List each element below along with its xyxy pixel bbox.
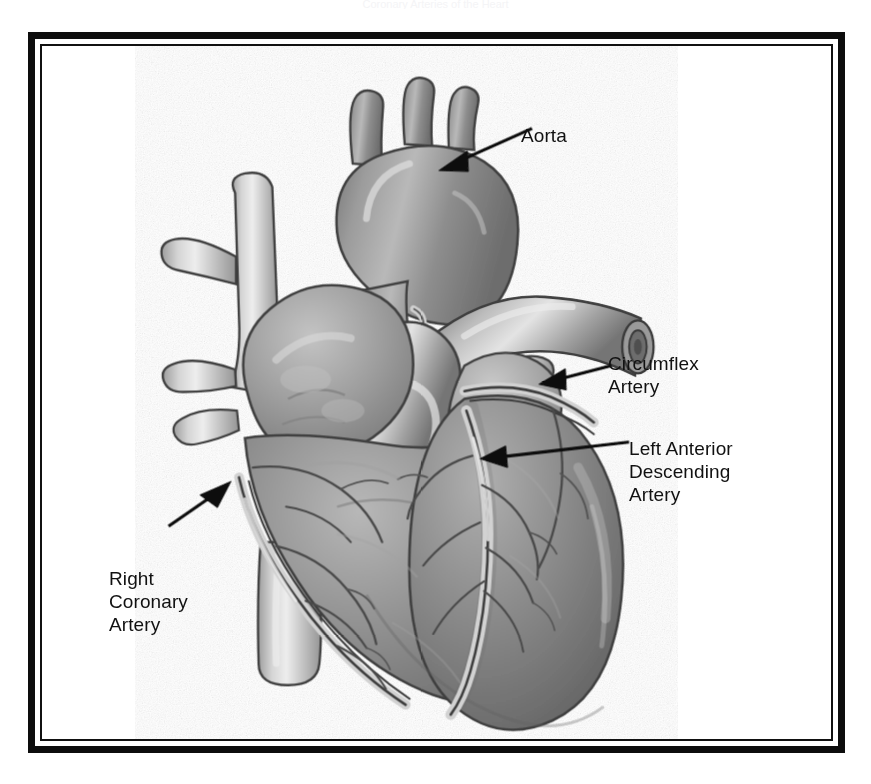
label-right-coronary-artery: Right Coronary Artery <box>109 567 188 636</box>
illustration-frame-inner: Aorta Circumflex Artery Left Anterior De… <box>40 44 833 741</box>
label-left-anterior-descending-artery: Left Anterior Descending Artery <box>629 437 733 506</box>
label-circumflex-artery: Circumflex Artery <box>608 352 699 398</box>
label-aorta: Aorta <box>521 124 567 147</box>
caption-remnant: Coronary Arteries of the Heart <box>0 0 871 9</box>
figure-root: Coronary Arteries of the Heart <box>0 0 871 784</box>
illustration-frame-outer: Aorta Circumflex Artery Left Anterior De… <box>28 32 845 753</box>
